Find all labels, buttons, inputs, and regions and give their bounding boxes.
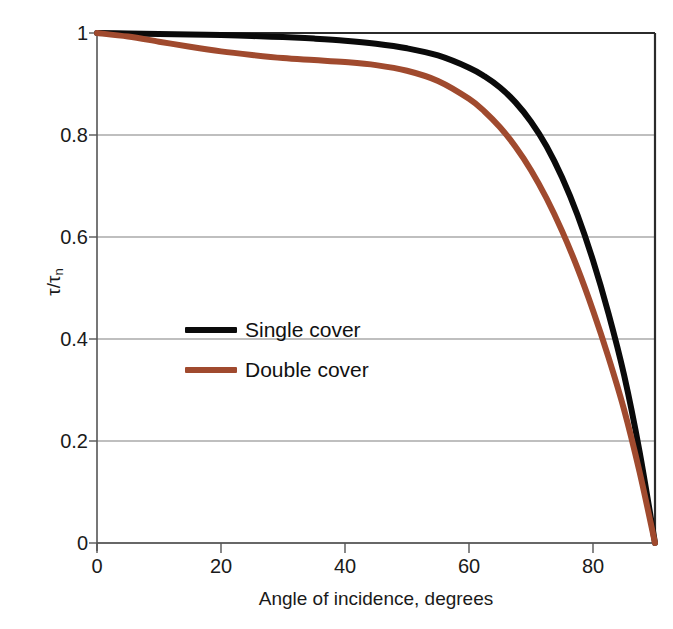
legend-swatch-single-cover <box>185 327 237 333</box>
data-curves <box>97 33 655 543</box>
legend-item-single-cover: Single cover <box>185 310 425 350</box>
gridlines <box>97 33 655 543</box>
plot-frame <box>97 33 655 551</box>
legend-swatch-double-cover <box>185 367 237 373</box>
chart-figure: τ/τn 00.20.40.60.81 020406080 Angle of i… <box>0 0 673 629</box>
curve-double-cover <box>97 33 655 543</box>
curve-single-cover <box>97 33 655 543</box>
axis-ticks <box>89 33 593 553</box>
legend-item-double-cover: Double cover <box>185 350 425 390</box>
legend-label-double-cover: Double cover <box>245 358 369 382</box>
legend-label-single-cover: Single cover <box>245 318 361 342</box>
legend: Single cover Double cover <box>185 310 425 390</box>
